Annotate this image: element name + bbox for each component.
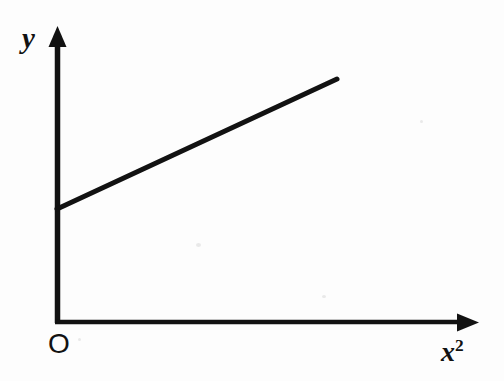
data-line-series	[57, 79, 337, 209]
x-axis-label-base: x	[441, 336, 455, 367]
graph-figure: y O x2	[0, 0, 504, 381]
x-axis-label: x2	[441, 337, 464, 366]
plot-canvas	[0, 0, 504, 381]
x-axis-label-exponent: 2	[455, 336, 464, 355]
x-axis-arrowhead	[457, 314, 479, 332]
y-axis-label: y	[22, 24, 35, 53]
origin-label: O	[48, 330, 70, 358]
y-axis-arrowhead	[49, 26, 67, 47]
